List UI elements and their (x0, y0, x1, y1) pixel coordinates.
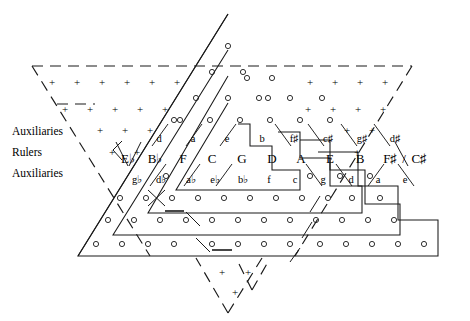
circle-mark (261, 217, 266, 222)
circle-mark (119, 241, 124, 246)
hatch-e (310, 196, 320, 212)
triangle-outer (78, 14, 438, 256)
circle-mark (339, 217, 344, 222)
circle-mark (93, 241, 98, 246)
triangle-outlines (78, 14, 438, 256)
circle-mark (247, 195, 252, 200)
sep-u5 (308, 124, 324, 146)
plus-mark: + (369, 124, 375, 136)
plus-mark: + (380, 103, 386, 115)
ruler-10: / (402, 151, 406, 166)
plus-mark: + (219, 266, 225, 278)
plus-mark: + (332, 76, 338, 88)
ruler-9: F♯ (383, 151, 397, 166)
plus-marks-upper: + + + + + + + + + + + + + + + + + + + + … (49, 76, 388, 158)
circle-mark (105, 217, 110, 222)
label-auxiliaries-top: Auxiliaries (12, 125, 63, 137)
circle-mark (365, 217, 370, 222)
lower-aux-8: d (348, 174, 354, 185)
plus-mark: + (112, 103, 118, 115)
plus-mark: + (307, 76, 313, 88)
plus-mark: + (382, 76, 388, 88)
ruler-1: B♭ (148, 151, 163, 166)
plus-mark: + (97, 124, 103, 136)
circle-mark (267, 117, 272, 122)
lower-aux-4: b♭ (238, 174, 248, 185)
circle-mark (171, 117, 176, 122)
circle-mark (327, 117, 332, 122)
circle-mark (265, 95, 270, 100)
circle-mark (169, 195, 174, 200)
circle-mark (297, 117, 302, 122)
plus-mark: + (124, 76, 130, 88)
circle-mark (195, 195, 200, 200)
circle-mark (337, 173, 342, 178)
plus-mark: + (162, 103, 168, 115)
lower-aux-9: a (376, 174, 381, 185)
ruler-4: G (237, 151, 246, 166)
circle-mark (235, 241, 240, 246)
upper-aux-0: d (156, 133, 162, 144)
circle-mark (171, 241, 176, 246)
plus-mark: + (330, 103, 336, 115)
label-rulers: Rulers (12, 146, 42, 158)
ruler-7: E (326, 151, 334, 166)
lower-aux-0: g♭ (132, 174, 142, 185)
plus-mark: + (87, 103, 93, 115)
sep-u4 (275, 124, 291, 146)
plus-marks-lower: + + + (219, 266, 251, 298)
circle-mark (325, 195, 330, 200)
circle-mark (377, 195, 382, 200)
figure-canvas: + + + + + + + + + + + + + + + + + + + + … (0, 0, 470, 321)
ruler-3: C (208, 151, 217, 166)
circle-mark (343, 241, 348, 246)
ruler-2: F (179, 151, 186, 166)
ruler-8: B (356, 151, 365, 166)
ruler-ticks (165, 211, 232, 250)
lower-aux-6: c (293, 174, 298, 185)
upper-auxiliary-row: d a e b f♯ c♯ g♯ d♯ (156, 133, 400, 144)
circle-mark (299, 195, 304, 200)
hatch-d (196, 238, 210, 252)
circle-mark (287, 241, 292, 246)
circle-mark (235, 217, 240, 222)
plus-mark: + (62, 103, 68, 115)
circle-mark (319, 95, 324, 100)
circle-marks (93, 43, 426, 246)
plus-mark: + (245, 266, 251, 278)
ruler-0: E♭ (121, 151, 135, 166)
circle-mark (261, 241, 266, 246)
plus-mark: + (137, 103, 143, 115)
circle-mark (287, 95, 292, 100)
label-auxiliaries-bottom: Auxiliaries (12, 167, 63, 179)
circle-mark (183, 217, 188, 222)
circle-mark (369, 241, 374, 246)
plus-mark: + (49, 76, 55, 88)
ruler-6: A (296, 151, 306, 166)
circle-mark (145, 241, 150, 246)
circle-mark (317, 241, 322, 246)
hatch-strokes (113, 141, 320, 262)
upper-aux-6: g♯ (357, 133, 368, 144)
circle-mark (225, 95, 230, 100)
plus-mark: + (99, 76, 105, 88)
plus-mark: + (357, 76, 363, 88)
circle-mark (209, 241, 214, 246)
plus-mark: + (174, 76, 180, 88)
ruler-5: D (267, 151, 276, 166)
circle-mark (209, 217, 214, 222)
plus-mark: + (355, 103, 361, 115)
lower-auxiliary-row: g♭ d♭ a♭ e♭ b♭ f c g d a e (132, 174, 408, 185)
lower-aux-2: a♭ (186, 174, 196, 185)
plus-mark: + (305, 103, 311, 115)
circle-mark (157, 217, 162, 222)
hatch-g (290, 248, 300, 262)
plus-mark: + (344, 124, 350, 136)
circle-mark (207, 117, 212, 122)
circle-mark (269, 75, 274, 80)
circle-mark (131, 217, 136, 222)
circle-mark (256, 95, 261, 100)
upper-separators (152, 124, 390, 146)
upper-aux-2: e (225, 133, 230, 144)
plus-mark: + (109, 146, 115, 158)
